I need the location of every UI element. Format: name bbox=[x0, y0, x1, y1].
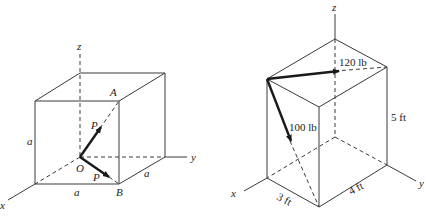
diagram-canvas: z y x A B O P P a a a z y x 120 lb bbox=[0, 0, 428, 222]
cube-right-face bbox=[119, 73, 165, 184]
z-axis-label-right: z bbox=[331, 1, 337, 13]
force-vector-100lb bbox=[267, 79, 291, 141]
dimension-height-label: a bbox=[27, 135, 33, 147]
left-cube-figure: z y x A B O P P a a a bbox=[0, 40, 196, 211]
y-axis-right bbox=[387, 165, 416, 181]
dimension-width-label: a bbox=[74, 186, 80, 198]
z-axis-label-left: z bbox=[76, 40, 82, 52]
x-axis-left bbox=[8, 184, 35, 200]
x-axis-label-right: x bbox=[230, 187, 236, 199]
cube-top-face bbox=[35, 73, 165, 101]
force-P-label-upper: P bbox=[90, 119, 98, 131]
force-120lb-label: 120 lb bbox=[339, 56, 367, 68]
point-A-label: A bbox=[109, 86, 117, 98]
force-P-label-lower: P bbox=[92, 171, 100, 183]
dimension-height-label: 5 ft bbox=[391, 111, 406, 123]
x-axis-hidden-right bbox=[267, 137, 335, 178]
dimension-depth-label: a bbox=[144, 167, 150, 179]
x-axis-right bbox=[244, 178, 267, 191]
dimension-width-label: 4 ft bbox=[346, 179, 365, 197]
force-vector-P-to-A bbox=[80, 127, 101, 157]
point-B-label: B bbox=[116, 186, 123, 198]
y-axis-label-right: y bbox=[418, 177, 424, 189]
guide-100lb bbox=[290, 141, 319, 207]
dimension-depth-label: 3 ft bbox=[275, 190, 294, 208]
force-100lb-label: 100 lb bbox=[289, 121, 317, 133]
x-axis-label-left: x bbox=[0, 199, 5, 211]
line-to-B bbox=[109, 177, 119, 184]
point-O-label: O bbox=[76, 162, 84, 174]
y-axis-label-left: y bbox=[190, 151, 196, 163]
right-box-figure: z y x 120 lb 100 lb 5 ft 4 ft 3 ft bbox=[230, 1, 424, 208]
y-axis-hidden-right bbox=[335, 137, 387, 165]
x-axis-hidden-left bbox=[35, 157, 80, 184]
